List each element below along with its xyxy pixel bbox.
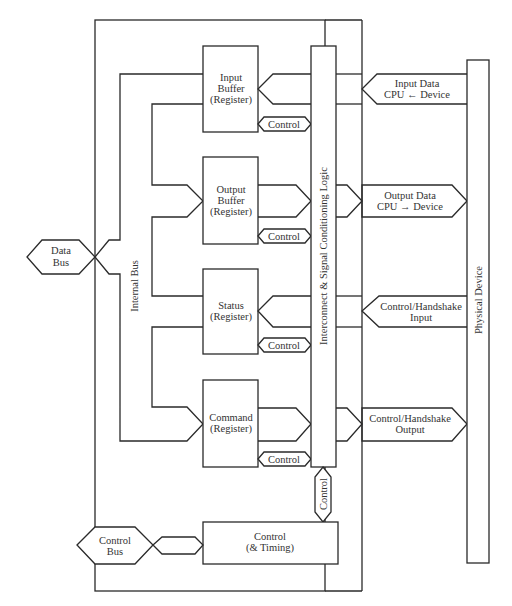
vertical-control-signal: Control: [315, 467, 331, 522]
interconnect-logic[interactable]: Interconnect & Signal Conditioning Logic: [311, 46, 336, 467]
device-signal-input-data: Input Data CPU ← Device: [336, 74, 467, 104]
register-label: Command: [209, 412, 253, 423]
data-bus-label-2: Bus: [53, 257, 69, 268]
internal-bus-lines: [95, 74, 203, 441]
register-control-signal: Control: [258, 117, 311, 131]
control-label: Control: [268, 119, 300, 130]
control-label: Control: [318, 478, 329, 510]
control-bus[interactable]: Control Bus: [77, 527, 153, 564]
control-label: Control: [268, 231, 300, 242]
signal-label: Input Data: [395, 78, 440, 89]
device-signal-handshake-input: Control/Handshake Input: [362, 296, 467, 327]
device-signal-output-data: Output Data CPU → Device: [362, 185, 467, 217]
register-label: (Register): [210, 311, 252, 323]
register-label: Output: [216, 184, 245, 195]
status-register[interactable]: Status (Register): [203, 269, 258, 354]
control-bus-label-1: Control: [99, 535, 131, 546]
control-label: Control: [268, 340, 300, 351]
physical-device[interactable]: Physical Device: [467, 60, 489, 563]
control-timing-label: (& Timing): [246, 542, 295, 554]
io-interface-diagram: Internal Bus Data Bus Input Buffer (Regi…: [0, 0, 512, 606]
data-bus[interactable]: Data Bus: [27, 240, 95, 274]
register-control-signal: Control: [258, 338, 311, 352]
register-label: Input: [220, 72, 242, 83]
physical-device-label: Physical Device: [473, 266, 484, 334]
command-register[interactable]: Command (Register): [203, 380, 258, 467]
output-buffer-register[interactable]: Output Buffer (Register): [203, 157, 258, 244]
register-label: (Register): [210, 206, 252, 218]
signal-label: CPU → Device: [377, 201, 443, 212]
control-label: Control: [268, 454, 300, 465]
internal-bus-label: Internal Bus: [129, 260, 140, 312]
register-control-signal: Control: [258, 229, 311, 243]
signal-label: Output: [395, 424, 424, 435]
register-label: Status: [218, 300, 244, 311]
register-control-signal: Control: [258, 452, 311, 466]
interconnect-device-lines: [336, 20, 362, 591]
control-timing-label: Control: [254, 531, 286, 542]
register-label: Buffer: [217, 195, 245, 206]
data-bus-label-1: Data: [51, 245, 71, 256]
signal-label: CPU ← Device: [384, 89, 450, 100]
interconnect-label: Interconnect & Signal Conditioning Logic: [318, 167, 329, 345]
device-signal-handshake-output: Control/Handshake Output: [362, 408, 467, 441]
control-bus-label-2: Bus: [107, 546, 123, 557]
control-timing-block[interactable]: Control (& Timing): [203, 522, 338, 564]
signal-label: Control/Handshake: [369, 413, 451, 424]
register-label: (Register): [210, 423, 252, 435]
signal-label: Input: [410, 312, 432, 323]
control-bus-link: [153, 537, 203, 554]
signal-label: Control/Handshake: [380, 301, 462, 312]
register-label: (Register): [210, 94, 252, 106]
register-label: Buffer: [217, 83, 245, 94]
signal-label: Output Data: [384, 190, 436, 201]
input-buffer-register[interactable]: Input Buffer (Register): [203, 46, 258, 132]
